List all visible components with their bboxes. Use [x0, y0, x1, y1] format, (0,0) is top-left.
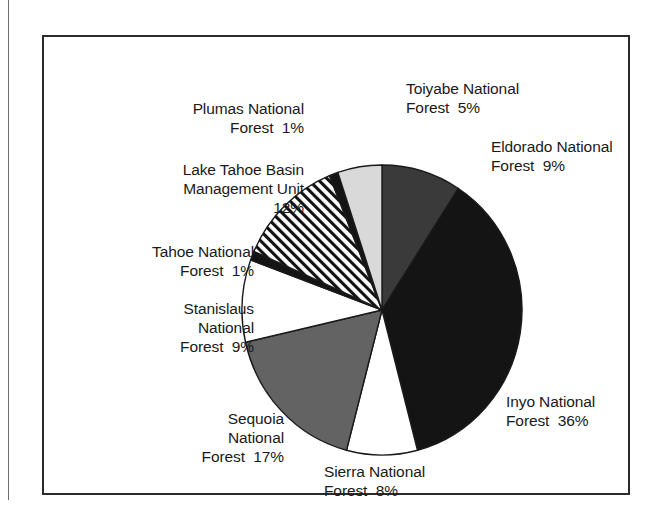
pie-label-eldorado: Eldorado National Forest 9% [491, 137, 613, 175]
chart-frame: Toiyabe National Forest 5% Eldorado Nati… [42, 35, 630, 495]
pie-label-sierra: Sierra National Forest 8% [324, 462, 425, 500]
page-edge-line [8, 0, 9, 500]
pie-label-plumas: Plumas National Forest 1% [100, 99, 304, 137]
pie-label-inyo: Inyo National Forest 36% [506, 392, 595, 430]
pie-label-tahoe: Tahoe National Forest 1% [74, 242, 254, 280]
pie-label-stanislaus: Stanislaus National Forest 9% [84, 299, 254, 356]
chart-page: Toiyabe National Forest 5% Eldorado Nati… [0, 0, 646, 520]
pie-label-sequoia: Sequoia National Forest 17% [148, 409, 284, 466]
pie-label-lake-tahoe-basin: Lake Tahoe Basin Management Unit 12% [78, 160, 304, 217]
pie-label-toiyabe: Toiyabe National Forest 5% [406, 79, 519, 117]
